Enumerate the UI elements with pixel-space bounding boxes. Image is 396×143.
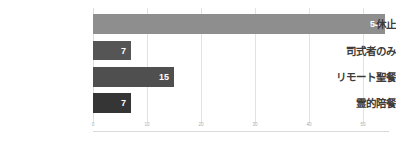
bar-row-3: 7 [93, 93, 131, 113]
category-label-1: 司式者のみ [308, 46, 396, 57]
tick-label-0: 0 [92, 122, 95, 127]
bar-value-1: 7 [121, 46, 126, 55]
bar-value-3: 7 [121, 99, 126, 108]
tick-label-10: 10 [144, 122, 149, 127]
bar-row-1: 7 [93, 41, 131, 60]
category-label-0: 休止 [308, 19, 396, 30]
tick-label-20: 20 [198, 122, 203, 127]
category-label-2: リモート聖餐 [308, 72, 396, 83]
tick-label-50: 50 [360, 122, 365, 127]
bar-row-2: 15 [93, 67, 174, 87]
category-label-3: 霊的陪餐 [308, 98, 396, 109]
bar-value-2: 15 [159, 73, 169, 82]
x-axis-line [93, 131, 389, 132]
bar-chart: 54 7 15 7 休止 司式者のみ リモート聖餐 霊的陪餐 0 10 20 3… [0, 0, 396, 143]
tick-label-40: 40 [306, 122, 311, 127]
tick-label-30: 30 [252, 122, 257, 127]
